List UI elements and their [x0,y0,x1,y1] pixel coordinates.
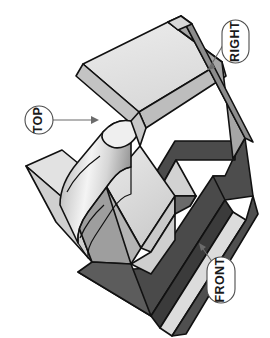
callout-front-label: FRONT [213,257,227,302]
isometric-drawing-canvas: RIGHT TOP FRONT [0,0,270,338]
callout-top[interactable]: TOP [25,106,53,134]
callout-right-label: RIGHT [228,21,242,62]
callout-right[interactable]: RIGHT [222,20,249,63]
callout-top-label: TOP [31,107,45,134]
leader-top-arrowhead [91,116,99,124]
figure-root: RIGHT TOP FRONT [0,0,270,338]
callout-front[interactable]: FRONT [207,257,235,303]
